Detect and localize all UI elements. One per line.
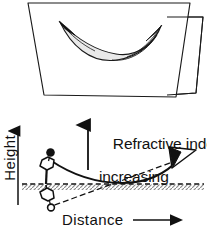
height-axis-label: Height (2, 135, 18, 181)
mirage-physics-figure: Refractive index increasing Distance Hei… (0, 0, 207, 235)
refractive-index-annotation: Refractive index increasing (96, 120, 207, 218)
object-tree-upright (40, 148, 55, 184)
mirage-crown-circle (48, 204, 55, 211)
tree-crown-dot (46, 148, 55, 157)
mirage-foliage (40, 188, 54, 201)
distance-axis-label: Distance (62, 212, 124, 228)
annotation-line-1: Refractive index (113, 135, 207, 152)
annotation-line-2: increasing (99, 169, 207, 185)
tree-foliage (40, 157, 54, 170)
